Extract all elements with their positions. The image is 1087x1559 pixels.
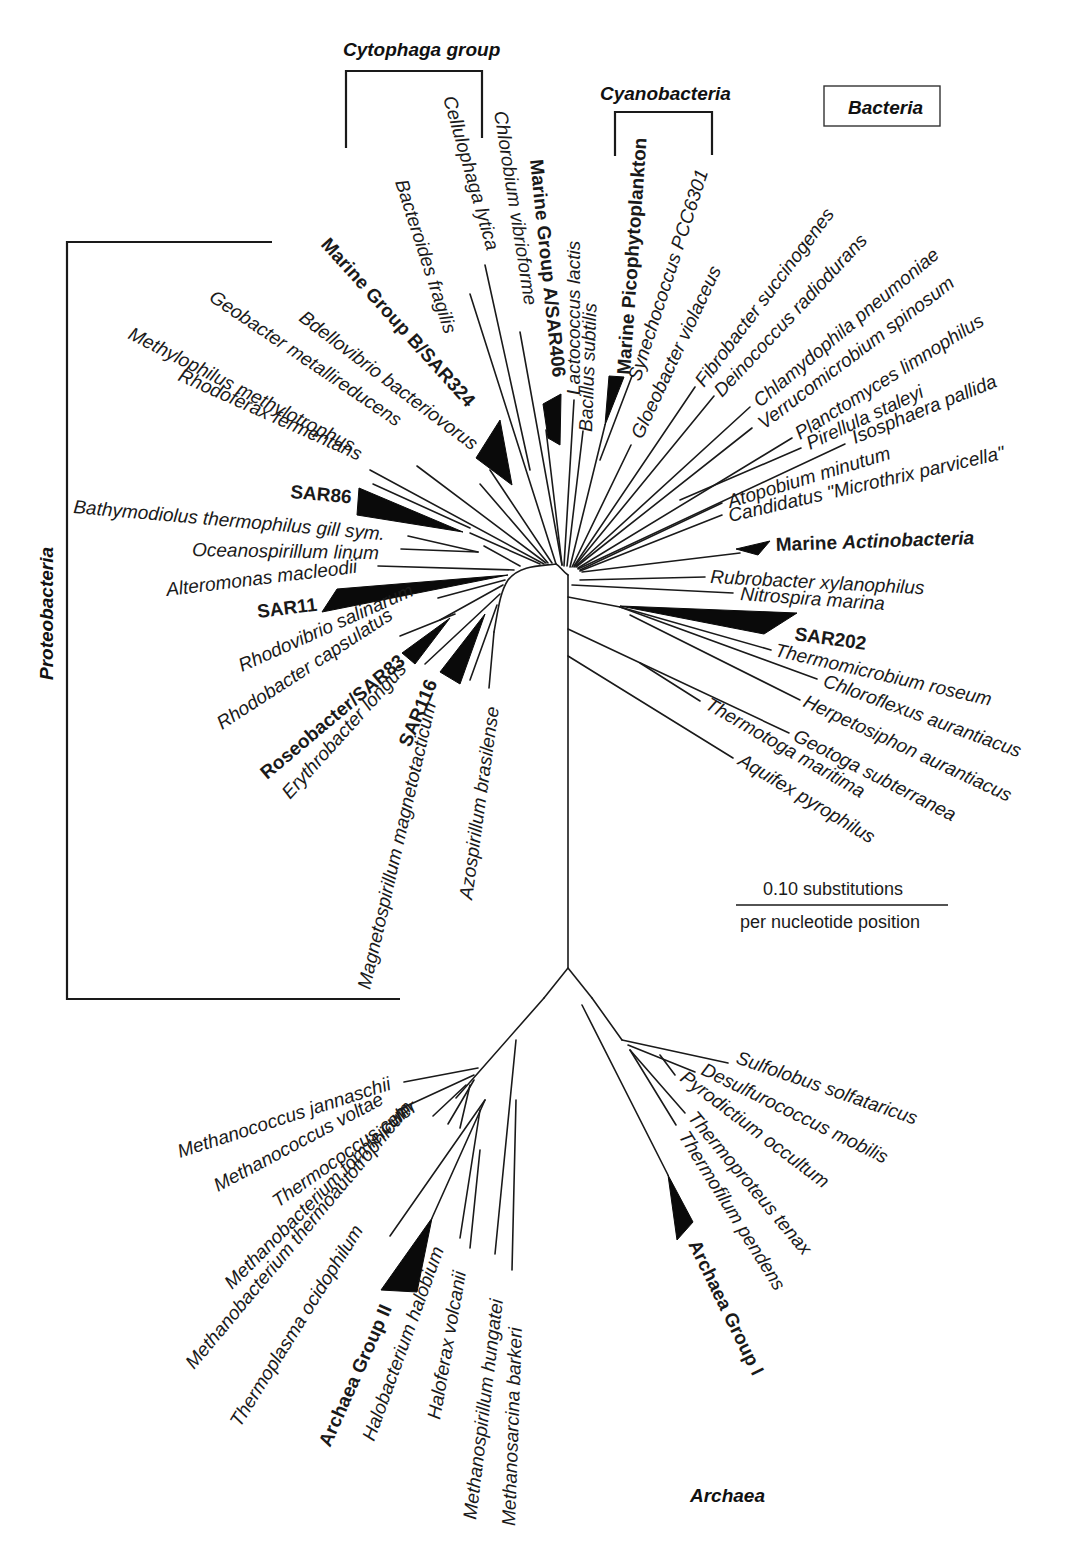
clade-sar116 xyxy=(440,614,485,684)
taxon-label: Azospirillum brasilense xyxy=(455,705,503,901)
proteobacteria-labels: Marine Group B/SAR324 Bdellovibrio bacte… xyxy=(73,234,503,991)
taxon-label: SAR86 xyxy=(290,481,353,507)
taxon-label: Bacillus subtilis xyxy=(575,302,601,432)
cytophaga-group-label: Cytophaga group xyxy=(343,39,500,60)
taxon-label: SAR11 xyxy=(256,594,319,622)
taxon-label: Alteromonas macleodii xyxy=(164,556,359,600)
scale-bar-bottom-label: per nucleotide position xyxy=(740,912,920,932)
tree-backbone xyxy=(494,564,592,998)
clade-marine-picophytoplankton xyxy=(605,376,624,425)
scale-bar-top-label: 0.10 substitutions xyxy=(763,879,903,899)
clade-marine-actinobacteria xyxy=(736,541,770,555)
bacteria-domain-label: Bacteria xyxy=(848,97,923,118)
phylogenetic-tree: Bacteria Archaea Cytophaga group Cyanoba… xyxy=(0,0,1087,1559)
cyanobacteria-group-label: Cyanobacteria xyxy=(600,83,731,104)
clade-marine-group-a xyxy=(543,394,561,445)
taxon-label-marine-actinobacteria: Marine Actinobacteria xyxy=(775,527,975,555)
taxon-label: Methanosarcina barkeri xyxy=(498,1326,526,1526)
cytophaga-bracket: Cytophaga group xyxy=(343,39,500,148)
upper-bacteria-labels: Bacteroides fragilis Cellulophaga lytica… xyxy=(391,93,1007,614)
archaea-domain-label: Archaea xyxy=(689,1485,765,1506)
clade-archaea-group-i xyxy=(668,1175,693,1240)
lower-right-bacteria-labels: SAR202 Thermomicrobium roseum Chloroflex… xyxy=(702,623,1025,847)
clade-sar202 xyxy=(620,606,797,634)
scale-bar: 0.10 substitutions per nucleotide positi… xyxy=(736,879,948,932)
archaea-labels: Methanococcus jannaschii Methanococcus v… xyxy=(175,1047,921,1526)
proteobacteria-group-label: Proteobacteria xyxy=(36,547,57,680)
cyanobacteria-bracket: Cyanobacteria xyxy=(600,83,731,156)
taxon-label: Magnetospirillum magnetotacticum xyxy=(353,700,440,991)
